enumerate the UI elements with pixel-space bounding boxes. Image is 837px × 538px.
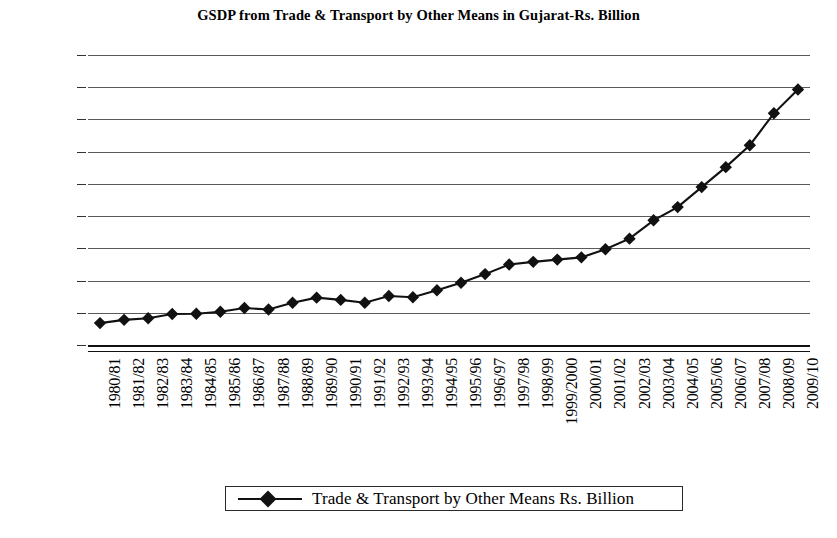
x-axis-tick-label: 1994/95 xyxy=(443,358,461,409)
data-point-marker xyxy=(214,306,226,318)
data-point-marker xyxy=(335,294,347,306)
x-axis-tick-label: 2007/08 xyxy=(756,358,774,409)
x-axis-tick-label: 1992/93 xyxy=(395,358,413,409)
data-point-marker xyxy=(262,303,274,315)
x-axis-tick-label: 2008/09 xyxy=(780,358,798,409)
data-point-marker xyxy=(238,302,250,314)
data-point-marker xyxy=(527,256,539,268)
x-axis-tick-label: 1996/97 xyxy=(491,358,509,409)
x-axis-tick-label: 1997/98 xyxy=(515,358,533,409)
x-axis-tick-label: 2005/06 xyxy=(708,358,726,409)
x-axis-tick-label: 1984/85 xyxy=(202,358,220,409)
data-point-marker xyxy=(383,290,395,302)
y-axis-tick-mark xyxy=(77,248,86,249)
data-point-marker xyxy=(455,277,467,289)
legend: Trade & Transport by Other Means Rs. Bil… xyxy=(225,486,683,511)
data-point-marker xyxy=(599,243,611,255)
legend-entry-label: Trade & Transport by Other Means Rs. Bil… xyxy=(312,489,634,509)
x-axis-tick-label: 1988/89 xyxy=(299,358,317,409)
x-axis-tick-label: 1993/94 xyxy=(419,358,437,409)
data-point-marker xyxy=(118,314,130,326)
x-axis-tick-label: 1980/81 xyxy=(106,358,124,409)
y-axis-tick-mark xyxy=(77,87,86,88)
series-markers xyxy=(94,83,804,329)
y-axis-tick-mark xyxy=(77,55,86,56)
data-point-marker xyxy=(575,251,587,263)
x-axis-tick-label: 2004/05 xyxy=(684,358,702,409)
x-axis-line-secondary xyxy=(88,351,810,352)
x-axis-tick-label: 2000/01 xyxy=(587,358,605,409)
plot-area xyxy=(88,55,810,345)
legend-marker-diamond-icon xyxy=(238,492,302,506)
y-axis-tick-mark xyxy=(77,119,86,120)
data-point-marker xyxy=(479,268,491,280)
y-axis-tick-mark xyxy=(77,313,86,314)
chart-title: GSDP from Trade & Transport by Other Mea… xyxy=(0,7,837,24)
x-axis-tick-label: 2006/07 xyxy=(732,358,750,409)
x-axis-tick-label: 1985/86 xyxy=(226,358,244,409)
x-axis-line xyxy=(88,345,810,347)
data-point-marker xyxy=(190,308,202,320)
chart-container: GSDP from Trade & Transport by Other Mea… xyxy=(0,0,837,538)
data-point-marker xyxy=(431,284,443,296)
y-axis-tick-mark xyxy=(77,281,86,282)
y-axis-tick-mark xyxy=(77,345,86,346)
legend-entry: Trade & Transport by Other Means Rs. Bil… xyxy=(226,487,682,510)
x-axis-tick-label: 1982/83 xyxy=(154,358,172,409)
x-axis-tick-label: 1999/2000 xyxy=(563,358,581,425)
data-point-marker xyxy=(142,312,154,324)
x-axis-tick-label: 1983/84 xyxy=(178,358,196,409)
x-axis-tick-label: 1990/91 xyxy=(347,358,365,409)
data-point-marker xyxy=(166,308,178,320)
x-axis-tick-label: 2003/04 xyxy=(660,358,678,409)
x-axis-tick-label: 1981/82 xyxy=(130,358,148,409)
data-point-marker xyxy=(310,291,322,303)
data-point-marker xyxy=(94,317,106,329)
y-axis-tick-mark xyxy=(77,184,86,185)
x-axis-tick-label: 1995/96 xyxy=(467,358,485,409)
data-point-marker xyxy=(503,258,515,270)
series-line-group xyxy=(88,55,810,345)
data-point-marker xyxy=(551,253,563,265)
x-axis-tick-label: 2002/03 xyxy=(636,358,654,409)
y-axis-tick-mark xyxy=(77,216,86,217)
x-axis-tick-label: 2009/10 xyxy=(804,358,822,409)
series-polyline xyxy=(100,89,798,323)
data-point-marker xyxy=(286,297,298,309)
x-axis-tick-label: 1987/88 xyxy=(275,358,293,409)
x-axis-tick-label: 1989/90 xyxy=(323,358,341,409)
y-axis-tick-mark xyxy=(77,152,86,153)
x-axis-tick-label: 1991/92 xyxy=(371,358,389,409)
x-axis-tick-label: 1986/87 xyxy=(250,358,268,409)
x-axis-tick-label: 1998/99 xyxy=(539,358,557,409)
x-axis-tick-label: 2001/02 xyxy=(611,358,629,409)
data-point-marker xyxy=(407,291,419,303)
data-point-marker xyxy=(359,297,371,309)
